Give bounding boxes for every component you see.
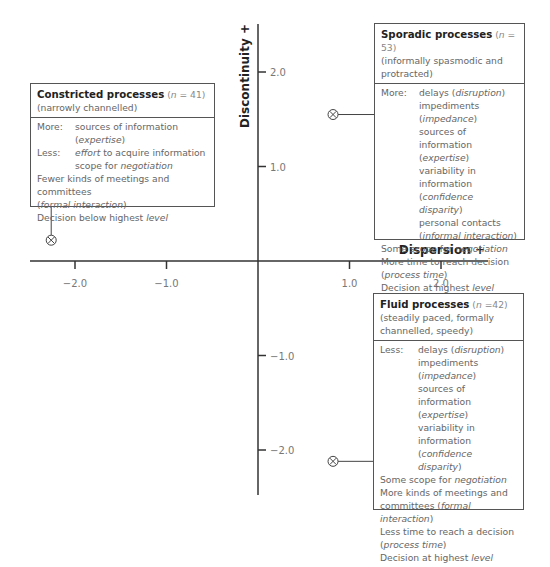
less-label: Less: — [37, 146, 75, 172]
line: Less time to reach a decision — [380, 525, 517, 538]
box-header: Constricted processes (n = 41) (narrowly… — [31, 84, 214, 118]
less-items: effort to acquire information scope for … — [75, 146, 208, 172]
line: Decision below highest level — [37, 211, 208, 224]
more-row: More: sources of information (expertise) — [37, 120, 208, 146]
line: committees (formal interaction) — [380, 499, 517, 525]
data-point-marker — [46, 235, 56, 245]
line: More time to reach decision — [381, 255, 518, 268]
box-subtitle: (informally spasmodic and protracted) — [381, 54, 518, 80]
more-label: More: — [381, 86, 419, 242]
line: Some scope for negotiation — [380, 473, 517, 486]
box-body: More: delays (disruption) impediments (i… — [375, 84, 524, 297]
box-title: Constricted processes — [37, 89, 164, 100]
sample-size: (n =42) — [472, 299, 507, 310]
box-subtitle: (steadily paced, formally channelled, sp… — [380, 311, 517, 337]
box-body: Less: delays (disruption) impediments (i… — [374, 341, 523, 567]
line: Fewer kinds of meetings and committees — [37, 172, 208, 198]
y-tick-label: −1.0 — [270, 351, 294, 362]
box-header: Fluid processes (n =42) (steadily paced,… — [374, 294, 523, 341]
y-axis-title: Discontinuity + — [238, 24, 252, 128]
y-tick-label: 1.0 — [270, 162, 286, 173]
box-header: Sporadic processes (n = 53) (informally … — [375, 24, 524, 84]
constricted-processes-box: Constricted processes (n = 41) (narrowly… — [30, 83, 215, 207]
more-items: delays (disruption) impediments (impedan… — [419, 86, 518, 242]
data-point-marker — [328, 110, 338, 120]
less-label: Less: — [380, 343, 418, 473]
y-tick-label: 2.0 — [270, 67, 286, 78]
line: (formal interaction) — [37, 198, 208, 211]
line: Some scope for negotiation — [381, 242, 518, 255]
box-subtitle: (narrowly channelled) — [37, 101, 208, 114]
y-tick-label: −2.0 — [270, 445, 294, 456]
line: More kinds of meetings and — [380, 486, 517, 499]
line: Decision at highest level — [380, 551, 517, 564]
x-tick-label: 1.0 — [342, 278, 358, 289]
line: (process time) — [380, 538, 517, 551]
x-tick-label: −2.0 — [63, 278, 87, 289]
line: (process time) — [381, 268, 518, 281]
more-row: More: delays (disruption) impediments (i… — [381, 86, 518, 242]
box-title: Fluid processes — [380, 299, 469, 310]
box-title: Sporadic processes — [381, 29, 492, 40]
x-tick-label: −1.0 — [154, 278, 178, 289]
more-label: More: — [37, 120, 75, 146]
fluid-processes-box: Fluid processes (n =42) (steadily paced,… — [373, 293, 524, 510]
box-body: More: sources of information (expertise)… — [31, 118, 214, 227]
less-row: Less: effort to acquire information scop… — [37, 146, 208, 172]
less-items: delays (disruption) impediments (impedan… — [418, 343, 517, 473]
data-point-marker — [328, 456, 338, 466]
less-row: Less: delays (disruption) impediments (i… — [380, 343, 517, 473]
sporadic-processes-box: Sporadic processes (n = 53) (informally … — [374, 23, 525, 240]
sample-size: (n = 41) — [167, 89, 205, 100]
more-item: sources of information (expertise) — [75, 120, 208, 146]
